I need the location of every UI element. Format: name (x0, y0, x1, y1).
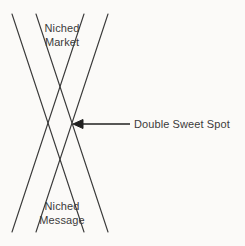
label-niched-message-line2: Message (39, 213, 84, 227)
label-niched-market: Niched Market (45, 21, 80, 49)
label-double-sweet-spot: Double Sweet Spot (134, 117, 230, 131)
label-niched-market-line2: Market (45, 35, 80, 49)
double-sweet-spot-diagram: Niched Market Niched Message Double Swee… (0, 0, 245, 246)
callout-arrow-head (73, 120, 83, 129)
callout-arrow (73, 120, 130, 129)
label-niched-message-line1: Niched (39, 199, 84, 213)
label-niched-message: Niched Message (39, 199, 84, 227)
label-niched-market-line1: Niched (45, 21, 80, 35)
